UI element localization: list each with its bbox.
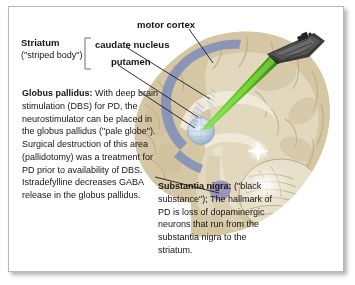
globus-pallidus-sphere xyxy=(188,118,215,145)
label-striatum: Striatum xyxy=(21,37,60,48)
label-putamen: putamen xyxy=(111,56,151,67)
substantia-nigra-annotation: Substantia nigra: ("black substance"); T… xyxy=(158,180,278,257)
globus-pallidus-annotation-body: With deep brain stimulation (DBS) for PD… xyxy=(22,88,158,200)
label-caudate-nucleus: caudate nucleus xyxy=(95,39,169,50)
leader-motor-cortex xyxy=(189,29,213,63)
striatum-bracket xyxy=(85,38,91,69)
label-motor-cortex: motor cortex xyxy=(137,19,195,30)
figure-card: motor cortex caudate nucleus putamen Str… xyxy=(8,6,344,272)
putamen-hatch xyxy=(188,103,205,131)
star-destroyer-ship xyxy=(267,32,325,64)
screenshot-root: motor cortex caudate nucleus putamen Str… xyxy=(0,0,355,285)
substantia-nigra-annotation-title: Substantia nigra: xyxy=(158,181,232,191)
label-striatum-subtitle: ("striped body") xyxy=(21,50,82,61)
white-sparkle xyxy=(247,140,269,162)
globus-pallidus-annotation: Globus pallidus: With deep brain stimula… xyxy=(22,87,165,202)
caudate-head xyxy=(207,90,216,108)
globus-pallidus-annotation-title: Globus pallidus: xyxy=(22,88,93,98)
substantia-nigra-annotation-body: ("black substance"); The hallmark of PD … xyxy=(158,181,272,255)
striatum-band xyxy=(161,40,241,173)
green-laser-beam xyxy=(201,51,283,130)
